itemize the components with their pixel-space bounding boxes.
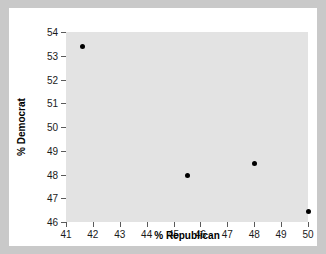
x-axis-tick-label: 44 (141, 229, 152, 240)
y-axis-tick-label: 52 (47, 74, 58, 85)
y-axis-tick-label: 48 (47, 169, 58, 180)
x-axis-tick-label: 49 (276, 229, 287, 240)
x-axis-tick-label: 41 (60, 229, 71, 240)
x-axis-tick (200, 222, 201, 227)
y-axis-tick (61, 175, 66, 176)
x-axis-tick-label: 47 (222, 229, 233, 240)
figure-canvas: 464748495051525354 % Democrat 4142434445… (9, 8, 317, 246)
data-point (80, 44, 85, 49)
x-axis-tick (66, 222, 67, 227)
x-axis-tick-label: 50 (302, 229, 313, 240)
x-axis-title: % Republican (154, 230, 220, 241)
y-axis-tick-label: 53 (47, 50, 58, 61)
x-axis-tick (174, 222, 175, 227)
y-axis-title: % Democrat (16, 98, 27, 156)
y-axis-tick (61, 103, 66, 104)
y-axis-tick-label: 50 (47, 122, 58, 133)
x-axis-tick-label: 43 (114, 229, 125, 240)
x-axis-tick (93, 222, 94, 227)
y-axis-tick (61, 32, 66, 33)
plot-panel (66, 32, 308, 222)
x-axis-tick (227, 222, 228, 227)
scatter-points-layer (66, 32, 308, 222)
y-axis-tick (61, 80, 66, 81)
y-axis-tick (61, 56, 66, 57)
x-axis-tick (308, 222, 309, 227)
data-point (185, 173, 190, 178)
y-axis-tick (61, 127, 66, 128)
x-axis-tick-label: 48 (249, 229, 260, 240)
x-axis-tick (281, 222, 282, 227)
x-axis-tick (120, 222, 121, 227)
y-axis-tick (61, 151, 66, 152)
y-axis-tick-label: 51 (47, 98, 58, 109)
y-axis-tick-label: 47 (47, 193, 58, 204)
data-point (306, 209, 311, 214)
y-axis-tick-label: 49 (47, 145, 58, 156)
x-axis-tick (147, 222, 148, 227)
y-axis-tick-label: 54 (47, 27, 58, 38)
data-point (252, 161, 257, 166)
x-axis-tick-label: 42 (87, 229, 98, 240)
y-axis-tick (61, 198, 66, 199)
x-axis-tick (254, 222, 255, 227)
